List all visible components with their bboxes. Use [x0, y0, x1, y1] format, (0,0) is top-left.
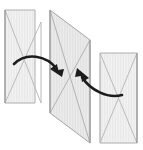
- diagram-root: [0, 0, 143, 150]
- right-plane: [100, 53, 137, 143]
- planes-diagram-svg: [0, 0, 143, 150]
